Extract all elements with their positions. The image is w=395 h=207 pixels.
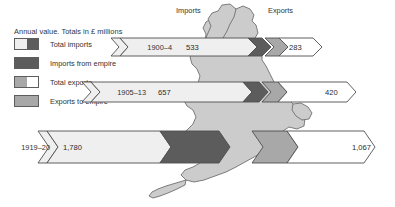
- year-label-1919-20: 1919–20: [12, 143, 50, 152]
- flow-row-1919-20: [0, 0, 395, 207]
- infographic-trade-flows: Imports Exports Annual value. Totals in …: [0, 0, 395, 207]
- import-value-1919-20: 1,780: [63, 143, 82, 152]
- export-value-1919-20: 1,067: [352, 143, 371, 152]
